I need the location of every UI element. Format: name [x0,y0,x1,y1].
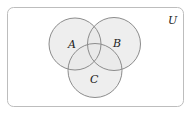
set-b-label: B [112,37,121,50]
set-c-label: C [90,73,99,86]
set-a-label: A [67,38,76,51]
universe-label: U [168,14,178,27]
venn-diagram: U A B C [0,0,189,113]
